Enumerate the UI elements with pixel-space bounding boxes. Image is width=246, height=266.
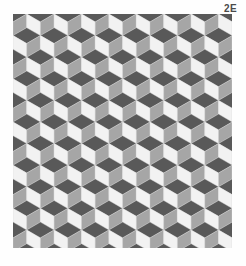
cube-tessellation-pattern (13, 14, 232, 248)
figure-root: 2E (0, 0, 246, 266)
cube-layer (13, 14, 232, 248)
cube-tessellation-svg (13, 14, 232, 248)
